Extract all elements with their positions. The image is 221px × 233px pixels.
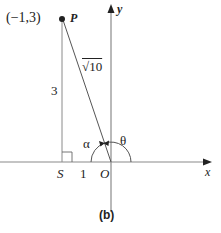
diagram-canvas [0, 0, 221, 233]
point-s-label: S [57, 167, 64, 180]
right-angle-marker [62, 152, 72, 162]
origin-label: O [100, 167, 109, 180]
side-length-3: 3 [51, 84, 58, 97]
point-p-coordinates: (−1,3) [6, 11, 41, 25]
alpha-label: α [83, 137, 90, 150]
hypotenuse-length: √10 [82, 60, 102, 73]
figure-caption: (b) [99, 209, 114, 221]
y-axis-arrow-icon [108, 4, 115, 13]
x-axis-label: x [205, 166, 210, 178]
alpha-arc [91, 143, 105, 162]
point-p-label: P [70, 12, 77, 24]
point-p [59, 16, 65, 22]
segment-so-length: 1 [80, 167, 87, 180]
theta-label: θ [120, 134, 126, 147]
sqrt10-label: √10 [82, 59, 102, 74]
y-axis-label: y [117, 3, 122, 15]
